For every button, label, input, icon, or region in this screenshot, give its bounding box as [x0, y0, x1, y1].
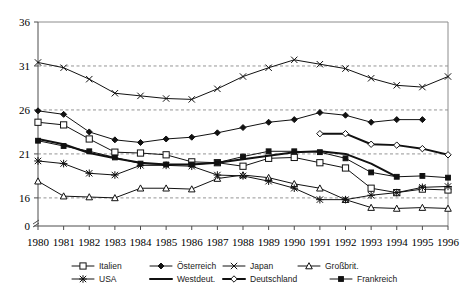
- series-line: [38, 111, 422, 143]
- legend-item-westdeut[interactable]: Westdeut.: [150, 274, 215, 284]
- legend-label: Japan: [250, 261, 273, 271]
- x-tick-label-1990: 1990: [283, 236, 306, 248]
- series-marker: [291, 117, 297, 123]
- series-marker: [419, 145, 425, 151]
- series-marker: [290, 184, 298, 192]
- series-marker: [86, 129, 92, 135]
- y-tick-label-36: 36: [19, 16, 31, 28]
- series-marker: [214, 130, 220, 136]
- series-marker: [240, 163, 246, 169]
- x-tick-label-1993: 1993: [360, 236, 383, 248]
- series-marker: [394, 174, 399, 179]
- legend-swatch-marker: [158, 263, 164, 269]
- series-marker: [265, 177, 273, 185]
- series-marker: [317, 110, 323, 116]
- series-marker: [342, 165, 348, 171]
- series-marker: [163, 136, 169, 142]
- y-tick-label-31: 31: [19, 60, 30, 72]
- series-marker: [163, 152, 169, 158]
- series-marker: [112, 155, 117, 160]
- y-tick-label-0: 0: [25, 220, 31, 232]
- chart-canvas: 36312621160 1980198119821983198419851986…: [0, 0, 471, 297]
- series-marker: [111, 171, 119, 179]
- series-marker: [394, 142, 400, 148]
- series-marker: [266, 119, 272, 125]
- series-line: [320, 134, 448, 155]
- series-marker: [61, 122, 67, 128]
- legend-label: Italien: [99, 261, 122, 271]
- series-marker: [112, 137, 118, 143]
- series-marker: [61, 111, 67, 117]
- series-marker: [266, 149, 271, 154]
- series-marker: [317, 150, 322, 155]
- series-marker: [419, 184, 427, 192]
- legend-item-usa[interactable]: USA: [72, 274, 117, 284]
- x-tick-label-1989: 1989: [258, 236, 281, 248]
- series-marker: [85, 169, 93, 177]
- series-marker: [137, 150, 143, 156]
- series-marker: [35, 108, 41, 114]
- series-marker: [240, 125, 246, 131]
- series-marker: [368, 75, 374, 81]
- series-marker: [444, 183, 452, 191]
- legend-label: Frankreich: [357, 274, 397, 284]
- series-marker: [292, 149, 297, 154]
- series-marker: [61, 144, 66, 149]
- series-marker: [317, 160, 323, 166]
- series-marker: [164, 162, 169, 167]
- series-marker: [419, 117, 425, 123]
- legend-label: Großbrit.: [325, 261, 359, 271]
- series-marker: [316, 196, 324, 204]
- series-marker: [214, 171, 222, 179]
- series-marker: [241, 154, 246, 159]
- x-tick-label-1991: 1991: [309, 236, 331, 248]
- series-marker: [34, 157, 42, 165]
- x-axis-labels: 1980198119821983198419851986198719881989…: [27, 236, 460, 248]
- series-marker: [265, 65, 271, 71]
- legend-item-frankreich[interactable]: Frankreich: [330, 274, 397, 284]
- legend-swatch-marker: [339, 277, 344, 282]
- series-marker: [317, 130, 323, 136]
- x-tick-label-1980: 1980: [27, 236, 50, 248]
- chart-legend: ItalienÖsterreichJapanGroßbrit.USAWestde…: [72, 261, 397, 284]
- series-marker: [368, 141, 374, 147]
- legend-label: Deutschland: [250, 274, 298, 284]
- series-line: [38, 175, 448, 208]
- data-series-layer: [34, 57, 452, 212]
- legend-item-italien[interactable]: Italien: [72, 261, 122, 271]
- series-marker: [189, 162, 194, 167]
- legend-item-deutschland[interactable]: Deutschland: [223, 274, 298, 284]
- series-marker: [367, 191, 375, 199]
- legend-label: Österreich: [177, 261, 216, 271]
- x-tick-label-1988: 1988: [232, 236, 255, 248]
- series-marker: [240, 73, 246, 79]
- y-tick-label-26: 26: [19, 104, 31, 116]
- legend-item--sterreich[interactable]: Österreich: [150, 261, 216, 271]
- legend-item-gro-brit[interactable]: Großbrit.: [298, 261, 359, 271]
- y-tick-label-16: 16: [19, 192, 31, 204]
- plot-frame: [33, 22, 448, 227]
- series-marker: [60, 160, 68, 168]
- series-marker: [291, 154, 297, 160]
- series-marker: [343, 156, 348, 161]
- series-marker: [369, 170, 374, 175]
- x-tick-label-1986: 1986: [181, 236, 204, 248]
- series-marker: [368, 119, 374, 125]
- series-japan: [35, 57, 451, 103]
- series-marker: [214, 86, 220, 92]
- series-marker: [445, 152, 451, 158]
- series-marker: [420, 174, 425, 179]
- legend-item-japan[interactable]: Japan: [223, 261, 273, 271]
- legend-label: Westdeut.: [177, 274, 215, 284]
- series-marker: [35, 119, 41, 125]
- legend-label: USA: [99, 274, 117, 284]
- series-marker: [446, 175, 451, 180]
- series-marker: [138, 161, 143, 166]
- series-marker: [368, 185, 374, 191]
- series-marker: [342, 196, 350, 204]
- x-tick-label-1995: 1995: [411, 236, 434, 248]
- series-marker: [215, 160, 220, 165]
- x-axis-ticks: [38, 226, 448, 230]
- series-marker: [86, 136, 92, 142]
- series-marker: [343, 112, 349, 118]
